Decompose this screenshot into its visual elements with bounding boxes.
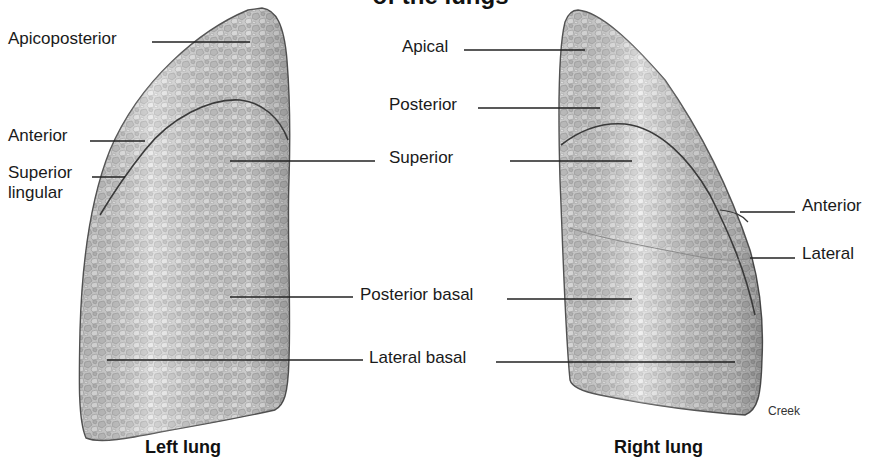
caption-right-lung: Right lung xyxy=(614,437,703,458)
label-superior-lingular-line2: lingular xyxy=(8,183,63,203)
artist-credit: Creek xyxy=(768,404,800,418)
label-superior: Superior xyxy=(389,148,453,168)
left-lung xyxy=(79,8,290,440)
label-left-anterior: Anterior xyxy=(8,126,68,146)
label-right-anterior: Anterior xyxy=(802,196,862,216)
label-lateral: Lateral xyxy=(802,244,854,264)
label-superior-lingular-line1: Superior xyxy=(8,163,72,183)
label-right-posterior: Posterior xyxy=(389,95,457,115)
label-lateral-basal: Lateral basal xyxy=(369,348,466,368)
label-apicoposterior: Apicoposterior xyxy=(8,29,117,49)
lung-illustration xyxy=(0,0,881,462)
label-posterior-basal: Posterior basal xyxy=(360,285,473,305)
right-lung xyxy=(559,10,763,415)
caption-left-lung: Left lung xyxy=(145,437,221,458)
label-apical: Apical xyxy=(402,37,448,57)
